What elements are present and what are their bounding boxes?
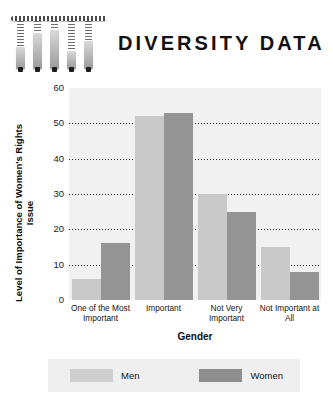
plot-area [69,88,321,300]
bar-women-1 [164,113,193,300]
legend-item-men: Men [70,369,139,382]
bar-women-3 [290,272,319,300]
bar-men-2 [198,194,227,300]
bar-women-2 [227,212,256,300]
x-axis-ticks: One of the Most ImportantImportantNot Ve… [69,304,321,330]
logo-cap-1 [16,47,25,69]
bar-men-3 [261,247,290,300]
logo-rail [11,16,107,21]
bar-men-0 [72,279,101,300]
hanging-bars-logo-icon [11,16,107,74]
bar-women-0 [101,243,130,300]
y-tick-10: 10 [34,260,64,270]
legend-swatch-women [199,369,242,382]
bar-men-1 [135,116,164,300]
x-tick-2: Not Very Important [195,304,258,330]
bar-group-0 [69,88,132,300]
bar-group-2 [195,88,258,300]
y-tick-40: 40 [34,154,64,164]
y-tick-0: 0 [34,295,64,305]
y-tick-60: 60 [34,83,64,93]
x-tick-0: One of the Most Important [69,304,132,330]
x-tick-1: Important [132,304,195,330]
legend-swatch-men [70,369,113,382]
logo-cap-3 [50,30,59,69]
x-tick-3: Not Important at All [258,304,321,330]
logo-knob-2 [35,67,40,72]
legend-item-women: Women [199,369,283,382]
chart-header: DIVERSITY DATA [0,0,333,78]
chart-legend: Men Women [48,359,300,392]
bar-group-3 [258,88,321,300]
x-axis-label: Gender [69,331,321,342]
logo-knob-5 [86,67,91,72]
bar-groups [69,88,321,300]
logo-knob-3 [52,67,57,72]
page-title: DIVERSITY DATA [118,28,323,58]
logo-knob-4 [69,67,74,72]
logo-cap-2 [33,33,42,69]
bar-group-1 [132,88,195,300]
y-tick-50: 50 [34,118,64,128]
logo-cap-5 [84,41,93,69]
bar-chart: Level of Importance of Women's Rights Is… [0,78,333,350]
logo-drop-4 [68,21,75,54]
logo-knob-1 [18,67,23,72]
y-tick-20: 20 [34,224,64,234]
y-tick-30: 30 [34,189,64,199]
y-axis-ticks: 6050403020100 [34,78,64,302]
legend-label-men: Men [121,370,139,381]
legend-label-women: Women [250,370,283,381]
